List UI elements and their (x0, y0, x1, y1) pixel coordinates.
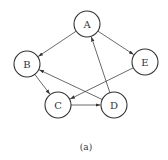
node-b: B (14, 51, 40, 77)
node-label: A (82, 19, 91, 30)
node-a: A (74, 11, 100, 37)
graph-diagram: ABCDE (a) (0, 0, 168, 160)
edge-d-to-b (39, 70, 102, 100)
edge-e-to-c (70, 68, 133, 99)
node-label: C (54, 100, 62, 111)
node-d: D (101, 92, 127, 118)
node-c: C (45, 92, 71, 118)
edge-b-to-c (35, 74, 50, 94)
node-label: B (23, 59, 30, 70)
nodes-group: ABCDE (14, 11, 158, 118)
node-label: E (141, 57, 148, 68)
edge-a-to-e (98, 31, 134, 54)
edge-a-to-b (38, 31, 76, 56)
node-label: D (110, 100, 118, 111)
node-e: E (132, 49, 158, 75)
figure-caption: (a) (80, 142, 92, 152)
